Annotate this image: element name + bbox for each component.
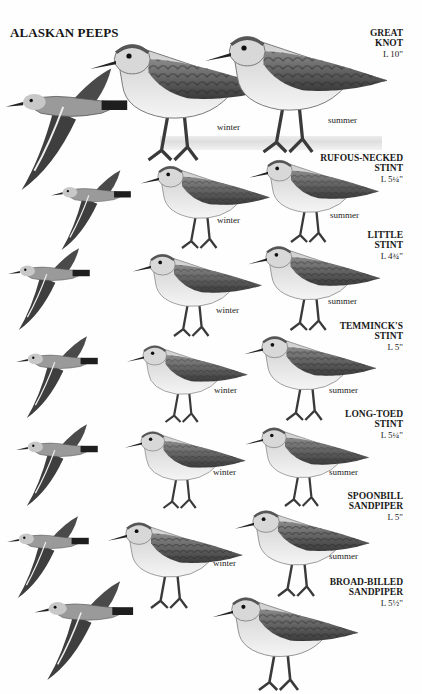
great-knot-summer-illustration — [186, 22, 406, 152]
temmincks-stint-flight-illustration — [16, 332, 100, 418]
little-stint-summer-illustration — [243, 236, 385, 330]
rufous-necked-stint-summer-illustration — [246, 150, 382, 242]
field-guide-plate: ALASKAN PEEPS GREAT KNOT L 10" RUFOUS-NE… — [0, 0, 422, 694]
little-stint-flight-illustration — [8, 244, 92, 330]
temmincks-stint-summer-illustration — [235, 326, 385, 420]
broad-billed-sandpiper-flight-illustration — [32, 576, 138, 680]
long-toed-stint-summer-illustration — [234, 418, 380, 506]
rufous-necked-stint-flight-illustration — [50, 166, 134, 250]
broad-billed-sandpiper-illustration — [192, 586, 378, 690]
spoonbill-sandpiper-summer-illustration — [224, 500, 380, 596]
long-toed-stint-flight-illustration — [16, 420, 100, 506]
